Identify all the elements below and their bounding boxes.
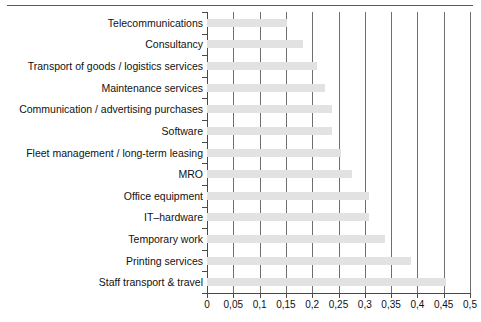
gridline-0,45 — [444, 12, 445, 293]
gridline-0,5 — [470, 12, 471, 293]
y-axis-tick — [202, 185, 207, 186]
x-axis-tick — [444, 293, 445, 298]
category-label: Transport of goods / logistics services — [3, 60, 203, 72]
bar — [207, 278, 446, 286]
bar — [207, 40, 303, 48]
x-axis-tick — [470, 293, 471, 298]
y-axis-tick — [202, 250, 207, 251]
gridline-0,4 — [417, 12, 418, 293]
y-axis-tick — [202, 271, 207, 272]
category-label: Maintenance services — [3, 82, 203, 94]
category-label: IT–hardware — [3, 211, 203, 223]
bar — [207, 235, 385, 243]
category-label: Software — [3, 125, 203, 137]
y-axis-tick — [202, 120, 207, 121]
bar — [207, 257, 411, 265]
bar — [207, 62, 317, 70]
category-label: Staff transport & travel — [3, 276, 203, 288]
bar — [207, 170, 352, 178]
x-axis-tick — [312, 293, 313, 298]
y-axis-tick — [202, 55, 207, 56]
category-label: Temporary work — [3, 233, 203, 245]
bar — [207, 19, 287, 27]
y-axis-tick — [202, 142, 207, 143]
y-axis-tick — [202, 228, 207, 229]
bar — [207, 84, 325, 92]
gridline-0,35 — [391, 12, 392, 293]
bar — [207, 213, 369, 221]
x-axis-tick — [391, 293, 392, 298]
x-axis-tick — [286, 293, 287, 298]
y-axis-tick — [202, 12, 207, 13]
y-axis-tick — [202, 77, 207, 78]
category-label: Communication / advertising purchases — [3, 103, 203, 115]
x-axis-tick — [365, 293, 366, 298]
x-axis-tick — [207, 293, 208, 298]
y-axis-tick — [202, 293, 207, 294]
bar — [207, 149, 341, 157]
x-axis-tick-label: 0,5 — [450, 299, 481, 311]
category-label: Telecommunications — [3, 17, 203, 29]
category-label: Office equipment — [3, 190, 203, 202]
bar — [207, 105, 332, 113]
category-label: MRO — [3, 168, 203, 180]
bar — [207, 192, 369, 200]
plot-area — [207, 12, 470, 293]
category-label: Printing services — [3, 255, 203, 267]
x-axis-tick — [417, 293, 418, 298]
gridline-0,3 — [365, 12, 366, 293]
bar-chart-figure: TelecommunicationsConsultancyTransport o… — [0, 0, 481, 322]
y-axis-tick — [202, 163, 207, 164]
x-axis-tick — [260, 293, 261, 298]
category-label: Fleet management / long-term leasing — [3, 147, 203, 159]
y-axis-tick — [202, 34, 207, 35]
y-axis-tick — [202, 98, 207, 99]
category-axis-labels: TelecommunicationsConsultancyTransport o… — [0, 0, 203, 322]
x-axis-tick — [233, 293, 234, 298]
category-label: Consultancy — [3, 38, 203, 50]
y-axis-tick — [202, 207, 207, 208]
bar — [207, 127, 332, 135]
x-axis-tick — [339, 293, 340, 298]
